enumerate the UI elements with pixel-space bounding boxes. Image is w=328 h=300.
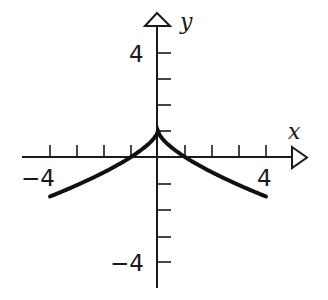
x-axis-label: x: [288, 119, 301, 144]
function-graph: x −4 4 y 4 −4: [0, 0, 328, 300]
y-axis-arrow-icon: [145, 13, 170, 26]
x-axis-arrow-icon: [292, 147, 307, 168]
x-tick-label-neg4: −4: [21, 165, 55, 191]
y-axis-label: y: [179, 9, 193, 34]
y-axis: y 4 −4: [110, 9, 193, 288]
x-tick-label-4: 4: [257, 165, 272, 191]
y-tick-label-neg4: −4: [110, 250, 144, 276]
x-axis: x −4 4: [21, 119, 307, 191]
y-tick-label-4: 4: [129, 41, 144, 67]
